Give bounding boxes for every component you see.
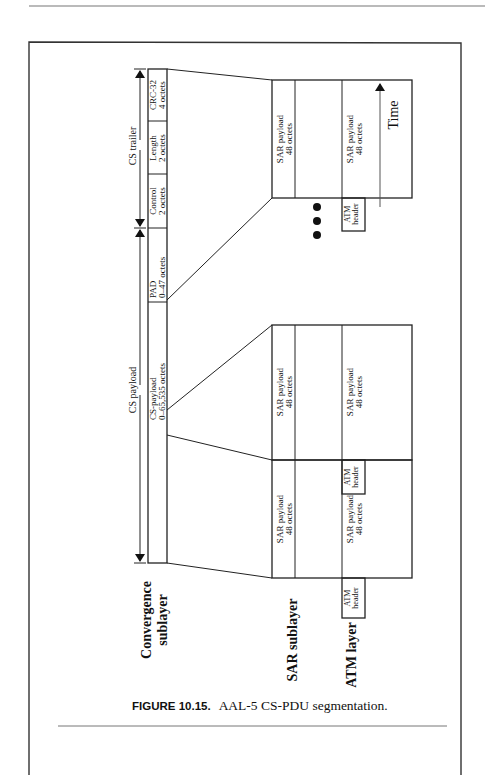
field-control: Control 2 octets [148,187,167,215]
sar-payload-label: SAR payload 48 octets [275,114,294,163]
time-axis: Time [380,84,401,207]
field-pad: PAD 0–47 octets [148,256,167,298]
svg-text:FIGURE 10.15. AAL-5 CS-P: FIGURE 10.15. AAL-5 CS-PDU segmentation. [132,696,388,713]
ellipsis-dots [313,203,321,239]
sar-payload-label: SAR payload 48 octets [275,494,294,543]
svg-text:Convergence: Convergence [139,581,154,659]
svg-text:SAR sublayer: SAR sublayer [285,599,300,682]
figure-frame [29,42,461,775]
figure-caption: FIGURE 10.15. AAL-5 CS-PDU segmentation. [58,696,447,726]
convergence-sublayer-label: Convergence sublayer [139,581,170,659]
figure-canvas: CRC-32 4 octets Length 2 octets Control … [0,0,485,775]
field-cs-payload: CS-payload 0–65,535 octets [148,363,167,420]
svg-text:48 octets: 48 octets [284,122,294,155]
sar-payload-label: SAR payload 48 octets [275,367,294,416]
svg-text:header: header [351,466,360,488]
atm-layer-label: ATM layer [344,622,359,687]
cell-2: SAR payload 48 octets SAR payload 48 oct… [272,325,412,494]
caption-label: FIGURE 10.15. [132,700,211,712]
atm-payload-label: SAR payload 48 octets [345,494,364,543]
cs-pdu: CRC-32 4 octets Length 2 octets Control … [148,69,167,563]
svg-text:48 octets: 48 octets [284,502,294,535]
caption-text: AAL-5 CS-PDU segmentation. [219,698,388,713]
svg-text:0–65,535 octets: 0–65,535 octets [157,363,167,420]
cs-payload-span: CS payload [127,230,146,563]
field-length: Length 2 octets [148,134,167,162]
field-crc32: CRC-32 4 octets [148,80,167,110]
atm-payload-label: SAR payload 48 octets [345,367,364,416]
cs-trailer-span: CS trailer [127,69,146,228]
svg-text:48 octets: 48 octets [354,375,364,408]
svg-text:sublayer: sublayer [155,594,170,645]
atm-header-label: ATM header [343,466,360,488]
svg-text:4 octets: 4 octets [157,81,167,109]
cs-payload-label: CS payload [127,367,138,413]
svg-text:48 octets: 48 octets [284,375,294,408]
atm-payload-label: SAR payload 48 octets [345,114,364,163]
svg-text:2 octets: 2 octets [157,187,167,215]
svg-text:header: header [351,587,360,609]
svg-text:48 octets: 48 octets [354,122,364,155]
svg-text:2 octets: 2 octets [157,134,167,162]
sar-sublayer-label: SAR sublayer [285,599,300,682]
cs-trailer-label: CS trailer [127,126,138,165]
time-label: Time [386,100,401,129]
atm-header-label: ATM header [343,203,360,225]
svg-text:ATM layer: ATM layer [344,622,359,687]
svg-text:header: header [351,203,360,225]
svg-text:0–47 octets: 0–47 octets [157,256,167,298]
segmentation-lines [167,69,272,578]
atm-header-label: ATM header [343,587,360,609]
svg-text:48 octets: 48 octets [354,502,364,535]
